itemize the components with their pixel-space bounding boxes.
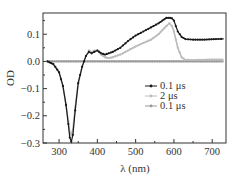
y-tick-label: −0.1 — [21, 83, 40, 94]
series-layer — [47, 17, 224, 143]
y-axis-title: OD — [4, 70, 16, 86]
x-tick-label: 600 — [166, 146, 182, 157]
transient-absorption-chart: −0.3−0.2−0.10.00.1 300400500600700 OD λ … — [0, 0, 234, 177]
y-tick-label: 0.1 — [27, 29, 40, 40]
plot-frame — [43, 13, 226, 143]
y-tick-label: −0.2 — [21, 110, 40, 121]
x-tick-label: 700 — [204, 146, 220, 157]
legend: 0.1 μs 2 μs 0.1 μs — [145, 80, 185, 111]
legend-label-2: 0.1 μs — [160, 100, 185, 111]
y-tick-label: −0.3 — [21, 138, 40, 149]
x-tick-label: 400 — [89, 146, 105, 157]
legend-item-2: 0.1 μs — [145, 100, 185, 111]
x-axis: 300400500600700 — [51, 139, 220, 157]
y-tick-label: 0.0 — [27, 56, 40, 67]
x-axis-title: λ (nm) — [120, 162, 150, 175]
x-tick-label: 500 — [128, 146, 144, 157]
x-tick-label: 300 — [51, 146, 67, 157]
